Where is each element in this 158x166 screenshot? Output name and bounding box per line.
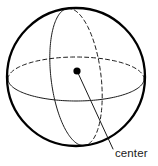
center-label: center xyxy=(115,147,148,159)
sphere-diagram: center xyxy=(0,0,158,166)
sphere-center-figure: center xyxy=(0,0,158,166)
figure-background xyxy=(0,0,158,166)
center-dot xyxy=(73,67,80,74)
